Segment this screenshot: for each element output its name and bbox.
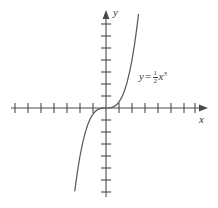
equation-annotation: y=12x3 bbox=[139, 70, 167, 86]
function-graph-figure bbox=[0, 0, 218, 208]
fraction-numerator: 1 bbox=[153, 70, 159, 77]
figure-background bbox=[0, 0, 218, 208]
equation-exponent: 3 bbox=[164, 70, 168, 78]
y-axis-label: y bbox=[113, 7, 118, 18]
x-axis-label: x bbox=[199, 114, 204, 125]
fraction-denominator: 2 bbox=[153, 77, 159, 85]
equation-relation: = bbox=[144, 70, 152, 82]
equation-fraction: 12 bbox=[153, 70, 159, 86]
